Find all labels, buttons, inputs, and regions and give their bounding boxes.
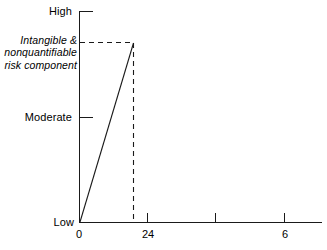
x-axis-label-0: 0 bbox=[64, 228, 94, 240]
risk-component-chart: High Moderate Low Intangible & nonquanti… bbox=[0, 0, 327, 250]
risk-series-line bbox=[80, 43, 134, 222]
x-axis-label-6: 6 bbox=[270, 228, 300, 240]
x-axis-label-24: 24 bbox=[133, 228, 163, 240]
callout-line-3: risk component bbox=[2, 59, 77, 71]
y-axis-label-low: Low bbox=[0, 216, 74, 228]
callout-annotation: Intangible & nonquantifiable risk compon… bbox=[2, 34, 77, 71]
callout-line-1: Intangible & bbox=[2, 34, 77, 46]
callout-line-2: nonquantifiable bbox=[2, 46, 77, 58]
y-axis-label-moderate: Moderate bbox=[0, 111, 72, 123]
y-axis-label-high: High bbox=[0, 5, 72, 17]
